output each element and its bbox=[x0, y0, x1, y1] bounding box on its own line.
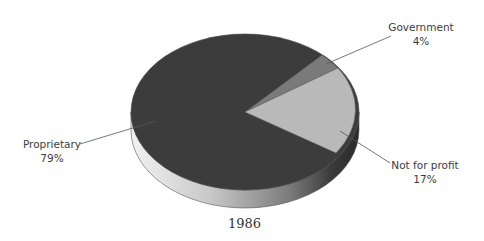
label-not-for-profit-name: Not for profit bbox=[380, 158, 470, 172]
label-proprietary: Proprietary 79% bbox=[22, 137, 82, 165]
label-not-for-profit-value: 17% bbox=[380, 172, 470, 186]
chart-year-caption: 1986 bbox=[228, 216, 261, 231]
label-proprietary-name: Proprietary bbox=[22, 137, 82, 151]
label-not-for-profit: Not for profit 17% bbox=[380, 158, 470, 186]
label-government: Government 4% bbox=[381, 20, 461, 48]
label-government-name: Government bbox=[381, 20, 461, 34]
label-government-value: 4% bbox=[381, 34, 461, 48]
label-proprietary-value: 79% bbox=[22, 151, 82, 165]
